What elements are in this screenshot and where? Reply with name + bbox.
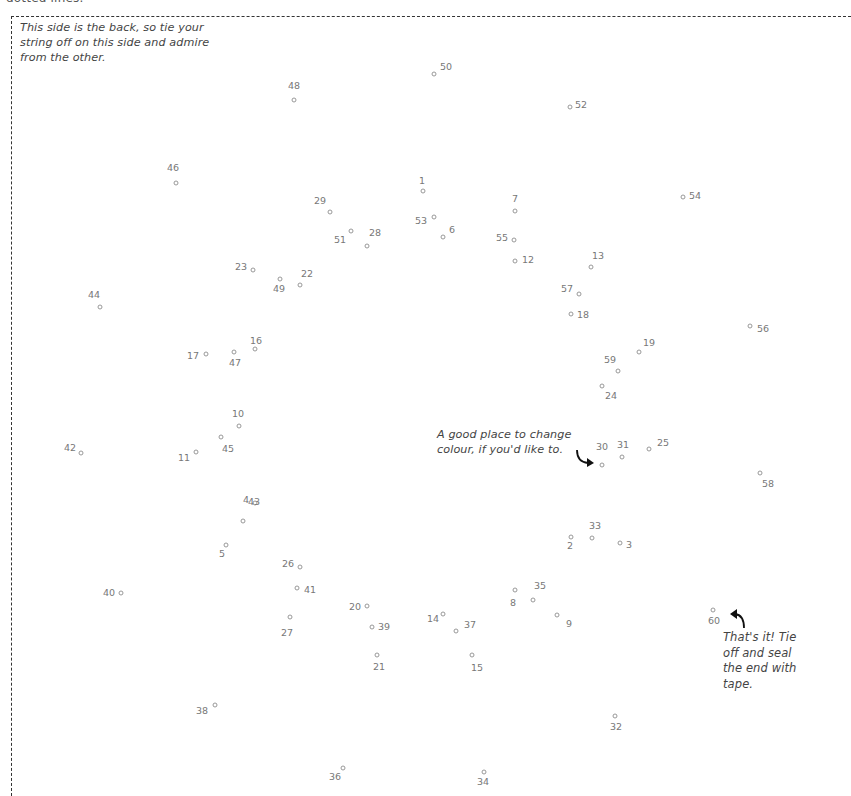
point-number-label: 30	[596, 441, 608, 452]
point-number-label: 7	[512, 193, 518, 204]
dashed-cut-line-top	[11, 16, 851, 17]
point-hole	[569, 312, 574, 317]
point-number-label: 10	[232, 408, 244, 419]
point-number-label: 45	[222, 443, 234, 454]
point-number-label: 58	[762, 478, 774, 489]
curved-arrow-icon	[728, 608, 750, 630]
point-number-label: 48	[288, 80, 300, 91]
point-hole	[98, 305, 103, 310]
point-hole	[589, 265, 594, 270]
point-number-label: 14	[427, 613, 439, 624]
point-hole	[577, 292, 582, 297]
finish-note-line: the end with	[723, 661, 796, 677]
point-hole	[513, 259, 518, 264]
point-hole	[600, 463, 605, 468]
point-number-label: 18	[577, 309, 589, 320]
point-hole	[441, 235, 446, 240]
point-hole	[365, 604, 370, 609]
point-hole	[224, 543, 229, 548]
point-number-label: 53	[415, 215, 427, 226]
point-number-label: 26	[282, 558, 294, 569]
point-number-label: 31	[617, 439, 629, 450]
point-number-label: 19	[643, 337, 655, 348]
point-hole	[758, 471, 763, 476]
point-hole	[79, 451, 84, 456]
point-hole	[241, 519, 246, 524]
back-side-note-line: This side is the back, so tie your	[20, 20, 209, 35]
point-number-label: 13	[592, 250, 604, 261]
point-number-label: 2	[567, 540, 573, 551]
point-number-label: 27	[281, 627, 293, 638]
point-hole	[555, 613, 560, 618]
point-number-label: 52	[575, 99, 587, 110]
point-number-label: 60	[708, 615, 720, 626]
point-hole	[569, 535, 574, 540]
point-number-label: 49	[273, 283, 285, 294]
point-number-label: 12	[522, 254, 534, 265]
point-hole	[421, 189, 426, 194]
cut-off-instruction-text: dotted lines.	[6, 0, 84, 5]
point-hole	[295, 586, 300, 591]
point-number-label: 54	[689, 190, 701, 201]
point-hole	[647, 447, 652, 452]
finish-note: That's it! Tie off and seal the end with…	[723, 630, 796, 692]
point-hole	[600, 384, 605, 389]
point-hole	[513, 209, 518, 214]
change-colour-note-line: A good place to change	[437, 427, 571, 442]
point-number-label: 56	[757, 323, 769, 334]
point-hole	[328, 210, 333, 215]
point-number-label: 17	[187, 350, 199, 361]
point-hole	[288, 615, 293, 620]
point-hole	[568, 105, 573, 110]
point-hole	[365, 244, 370, 249]
point-hole	[253, 347, 258, 352]
back-side-note-line: string off on this side and admire	[20, 35, 209, 50]
point-hole	[470, 653, 475, 658]
point-hole	[251, 268, 256, 273]
point-number-label: 9	[566, 618, 572, 629]
point-number-label: 24	[605, 390, 617, 401]
point-hole	[278, 277, 283, 282]
point-number-label: 3	[626, 539, 632, 550]
point-number-label: 47	[229, 357, 241, 368]
point-number-label: 1	[419, 175, 425, 186]
point-hole	[194, 450, 199, 455]
point-number-label: 16	[250, 335, 262, 346]
point-number-label: 34	[477, 776, 489, 787]
dashed-cut-line-left	[11, 16, 12, 796]
point-hole	[531, 598, 536, 603]
point-number-label: 25	[657, 437, 669, 448]
point-number-label: 39	[378, 621, 390, 632]
change-colour-note: A good place to change colour, if you'd …	[437, 427, 571, 457]
point-hole	[613, 714, 618, 719]
point-number-label: 43	[248, 496, 260, 507]
point-number-label: 15	[471, 662, 483, 673]
point-hole	[454, 629, 459, 634]
point-hole	[370, 625, 375, 630]
point-number-label: 46	[167, 162, 179, 173]
point-number-label: 6	[449, 224, 455, 235]
point-hole	[232, 350, 237, 355]
point-number-label: 57	[561, 283, 573, 294]
back-side-note: This side is the back, so tie your strin…	[20, 20, 209, 65]
point-number-label: 38	[196, 705, 208, 716]
point-number-label: 11	[178, 452, 190, 463]
point-number-label: 41	[304, 584, 316, 595]
point-hole	[482, 770, 487, 775]
point-hole	[174, 181, 179, 186]
point-number-label: 59	[604, 354, 616, 365]
point-number-label: 55	[496, 232, 508, 243]
point-hole	[512, 238, 517, 243]
point-hole	[219, 435, 224, 440]
point-hole	[618, 541, 623, 546]
finish-note-line: off and seal	[723, 646, 796, 662]
point-number-label: 37	[464, 619, 476, 630]
point-number-label: 40	[103, 587, 115, 598]
point-number-label: 23	[235, 261, 247, 272]
point-hole	[298, 283, 303, 288]
point-hole	[432, 72, 437, 77]
point-number-label: 28	[369, 227, 381, 238]
point-hole	[341, 766, 346, 771]
point-hole	[620, 455, 625, 460]
point-hole	[513, 588, 518, 593]
